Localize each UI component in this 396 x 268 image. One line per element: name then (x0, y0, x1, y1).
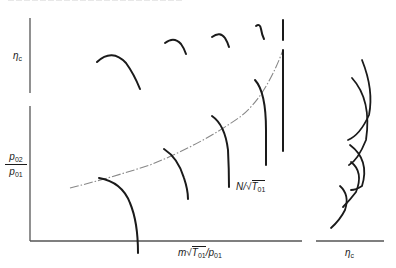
right-x-axis-label: ηc (345, 247, 354, 259)
x-axis-label: m√T01/p01 (178, 247, 222, 259)
compressor-map-diagram (0, 0, 396, 268)
upper-y-axis-label: ηc (13, 50, 22, 62)
surge-line (70, 50, 283, 188)
lower-y-axis-label: p02 p01 (5, 151, 27, 178)
speed-lines (99, 50, 283, 253)
efficiency-curves (97, 20, 283, 89)
efficiency-pressure-curves (331, 60, 370, 228)
speed-parameter-label: N/√T01 (236, 181, 265, 193)
